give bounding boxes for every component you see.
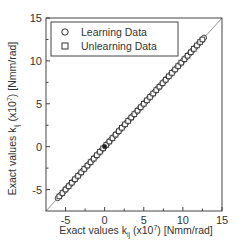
legend-circle-marker bbox=[62, 29, 68, 35]
y-axis-label-prefix: Exact values k bbox=[6, 127, 18, 195]
legend-square-marker bbox=[62, 43, 68, 49]
origin-overlap-point bbox=[102, 144, 106, 148]
x-axis-label-prefix: Exact values k bbox=[59, 224, 127, 236]
y-tick-label: 15 bbox=[30, 12, 42, 24]
unlearning-data-point bbox=[200, 37, 205, 42]
y-tick-label: 0 bbox=[36, 141, 42, 153]
legend: Learning Data Unlearning Data bbox=[51, 22, 178, 56]
x-axis-label: Exact values kij (x107) [Nmm/rad] bbox=[59, 224, 213, 239]
x-axis-label-mid: (x10 bbox=[130, 224, 154, 236]
x-axis-label-suffix: ) [Nmm/rad] bbox=[157, 224, 213, 236]
scatter-chart: -5051015-5051015 Learning Data Unlearnin… bbox=[0, 0, 239, 248]
y-tick-label: 10 bbox=[30, 55, 42, 67]
y-tick-label: -5 bbox=[32, 184, 42, 196]
y-axis-label: Exact values kij (x107) [Nmm/rad] bbox=[6, 42, 21, 196]
legend-label-learning: Learning Data bbox=[81, 26, 147, 38]
y-axis-label-mid: (x10 bbox=[6, 101, 18, 125]
y-tick-label: 5 bbox=[36, 98, 42, 110]
x-tick-label: 15 bbox=[216, 214, 228, 226]
legend-label-unlearning: Unlearning Data bbox=[81, 40, 157, 52]
data-points-layer bbox=[55, 35, 206, 201]
y-axis-label-suffix: ) [Nmm/rad] bbox=[6, 42, 18, 98]
